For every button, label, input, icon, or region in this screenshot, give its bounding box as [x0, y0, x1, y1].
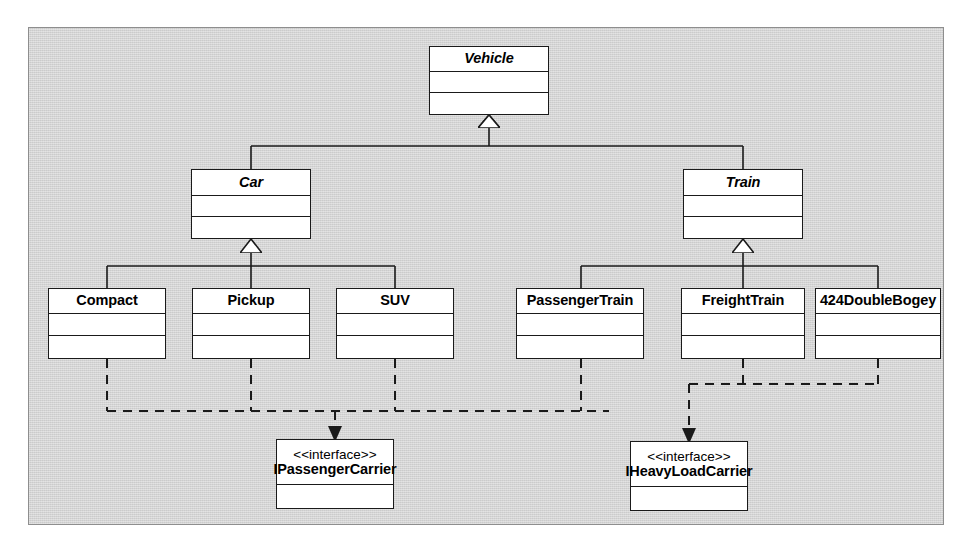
class-name-compartment: Pickup	[193, 289, 309, 314]
class-name-compartment: Car	[192, 170, 310, 196]
class-attributes-compartment	[682, 314, 804, 336]
interface-box-iheavyloadcarrier[interactable]: <<interface>> IHeavyLoadCarrier	[630, 441, 748, 511]
class-attributes-compartment	[193, 314, 309, 336]
class-box-suv[interactable]: SUV	[336, 288, 454, 359]
uml-diagram-canvas: Vehicle Car Train Compa	[28, 27, 944, 525]
class-name-compartment: 424DoubleBogey	[816, 289, 940, 314]
interface-name-label: IHeavyLoadCarrier	[625, 464, 752, 479]
class-box-424doublebogey[interactable]: 424DoubleBogey	[815, 288, 941, 359]
class-attributes-compartment	[49, 314, 165, 336]
generalization-car-group	[107, 253, 395, 288]
interface-operations-compartment	[631, 487, 747, 510]
class-attributes-compartment	[192, 196, 310, 217]
class-attributes-compartment	[816, 314, 940, 336]
class-name-compartment: Train	[684, 170, 802, 196]
class-box-car[interactable]: Car	[191, 169, 311, 239]
interface-operations-compartment	[277, 485, 393, 508]
generalization-triangle-vehicle	[478, 115, 500, 128]
class-operations-compartment	[193, 336, 309, 358]
class-name-label: Pickup	[228, 293, 275, 308]
class-name-label: Train	[726, 175, 761, 190]
realization-ipassengercarrier-group	[107, 359, 609, 432]
class-name-label: 424DoubleBogey	[820, 293, 936, 308]
class-box-compact[interactable]: Compact	[48, 288, 166, 359]
class-operations-compartment	[816, 336, 940, 358]
class-box-passengertrain[interactable]: PassengerTrain	[516, 288, 644, 359]
realization-iheavyloadcarrier-group	[689, 359, 878, 434]
class-name-compartment: PassengerTrain	[517, 289, 643, 314]
class-attributes-compartment	[517, 314, 643, 336]
class-box-train[interactable]: Train	[683, 169, 803, 239]
interface-name-compartment: <<interface>> IPassengerCarrier	[277, 440, 393, 485]
interface-name-compartment: <<interface>> IHeavyLoadCarrier	[631, 442, 747, 487]
class-box-freighttrain[interactable]: FreightTrain	[681, 288, 805, 359]
class-operations-compartment	[192, 217, 310, 238]
class-name-compartment: Compact	[49, 289, 165, 314]
class-operations-compartment	[49, 336, 165, 358]
class-name-compartment: Vehicle	[430, 47, 548, 72]
class-box-vehicle[interactable]: Vehicle	[429, 46, 549, 115]
class-operations-compartment	[684, 217, 802, 238]
class-name-label: Car	[239, 175, 263, 190]
class-name-label: PassengerTrain	[527, 293, 634, 308]
class-name-label: FreightTrain	[702, 293, 785, 308]
class-operations-compartment	[337, 336, 453, 358]
class-operations-compartment	[517, 336, 643, 358]
generalization-vehicle-group	[251, 127, 743, 169]
class-attributes-compartment	[430, 72, 548, 93]
generalization-train-group	[581, 253, 878, 288]
interface-stereotype-label: <<interface>>	[647, 449, 730, 464]
class-attributes-compartment	[684, 196, 802, 217]
class-name-label: Vehicle	[464, 51, 514, 66]
class-attributes-compartment	[337, 314, 453, 336]
interface-name-label: IPassengerCarrier	[273, 462, 396, 477]
class-box-pickup[interactable]: Pickup	[192, 288, 310, 359]
class-operations-compartment	[430, 93, 548, 114]
class-name-compartment: SUV	[337, 289, 453, 314]
interface-stereotype-label: <<interface>>	[293, 447, 376, 462]
class-name-label: SUV	[380, 293, 410, 308]
class-operations-compartment	[682, 336, 804, 358]
class-name-compartment: FreightTrain	[682, 289, 804, 314]
class-name-label: Compact	[76, 293, 137, 308]
interface-box-ipassengercarrier[interactable]: <<interface>> IPassengerCarrier	[276, 439, 394, 509]
